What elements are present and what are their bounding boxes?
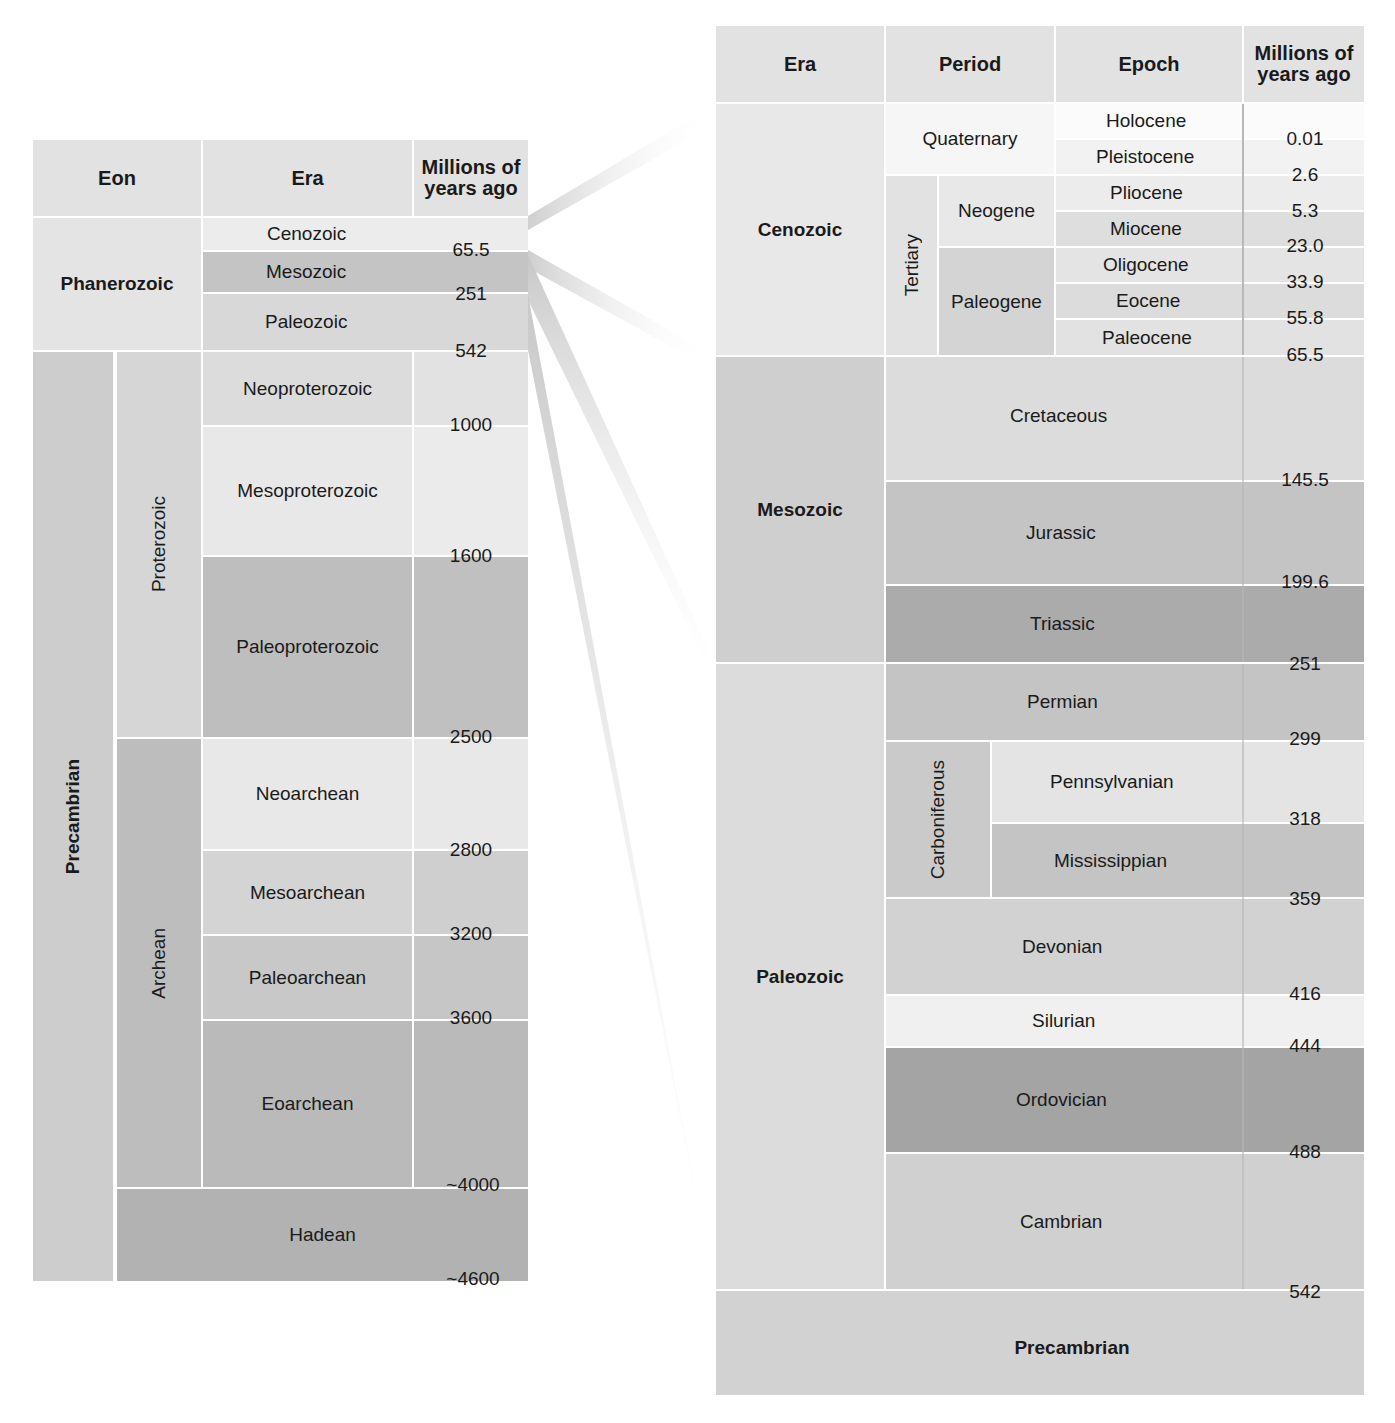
boundary-value: 145.5 <box>1250 469 1360 491</box>
period-tertiary: Tertiary <box>886 176 937 355</box>
boundary-value: 251 <box>1250 653 1360 675</box>
eon-label: Proterozoic <box>148 496 170 592</box>
mya-cell <box>414 739 528 849</box>
period-cretaceous: Cretaceous <box>886 357 1364 480</box>
mya-cell <box>414 851 528 934</box>
era-label: Mesozoic <box>266 261 346 283</box>
era-precambrian: Precambrian <box>716 1291 1364 1395</box>
boundary-value: 444 <box>1250 1035 1360 1057</box>
boundary-value: ~4000 <box>418 1174 528 1196</box>
eon-label: Precambrian <box>62 759 84 874</box>
period-label: Ordovician <box>1016 1089 1107 1111</box>
boundary-value: 359 <box>1250 888 1360 910</box>
period-cambrian: Cambrian <box>886 1154 1364 1289</box>
period-label: Cambrian <box>1020 1211 1102 1233</box>
era-mesoarchean: Mesoarchean <box>203 851 412 934</box>
era-neoproterozoic: Neoproterozoic <box>203 352 412 425</box>
period-jurassic: Jurassic <box>886 482 1364 584</box>
era-neoarchean: Neoarchean <box>203 739 412 849</box>
epoch-label: Oligocene <box>1103 254 1189 276</box>
header-era: Era <box>716 26 884 102</box>
boundary-value: 5.3 <box>1250 200 1360 222</box>
era-paleozoic: Paleozoic <box>716 664 884 1289</box>
boundary-value: 488 <box>1250 1141 1360 1163</box>
boundary-value: 2500 <box>416 726 526 748</box>
period-label: Silurian <box>1032 1010 1095 1032</box>
header-mya: Millions of years ago <box>414 140 528 216</box>
boundary-value: 23.0 <box>1250 235 1360 257</box>
era-cenozoic: Cenozoic <box>716 104 884 355</box>
boundary-value: ~4600 <box>418 1268 528 1290</box>
period-label: Mississippian <box>1054 850 1167 872</box>
boundary-value: 1000 <box>416 414 526 436</box>
mya-cell <box>414 427 528 555</box>
epoch-label: Pleistocene <box>1096 146 1194 168</box>
period-label: Permian <box>1027 691 1098 713</box>
era-paleoproterozoic: Paleoproterozoic <box>203 557 412 737</box>
boundary-value: 0.01 <box>1250 128 1360 150</box>
era-paleoarchean: Paleoarchean <box>203 936 412 1019</box>
period-label: Pennsylvanian <box>1050 771 1174 793</box>
epoch-label: Paleocene <box>1102 327 1192 349</box>
boundary-value: 33.9 <box>1250 271 1360 293</box>
period-label: Triassic <box>1030 613 1095 635</box>
period-devonian: Devonian <box>886 899 1364 994</box>
period-carboniferous: Carboniferous <box>886 742 990 897</box>
divider <box>1242 357 1244 662</box>
header-period: Period <box>886 26 1054 102</box>
epoch-label: Miocene <box>1110 218 1182 240</box>
period-mississippian: Mississippian <box>992 824 1364 897</box>
epoch-label: Holocene <box>1106 110 1186 132</box>
epoch-label: Eocene <box>1116 290 1180 312</box>
boundary-value: 251 <box>416 283 526 305</box>
boundary-value: 542 <box>1250 1281 1360 1303</box>
period-label: Jurassic <box>1026 522 1096 544</box>
boundary-value: 3200 <box>416 923 526 945</box>
boundary-value: 2.6 <box>1250 164 1360 186</box>
period-neogene: Neogene <box>939 176 1054 246</box>
period-ordovician: Ordovician <box>886 1048 1364 1152</box>
eon-label: Archean <box>148 928 170 999</box>
boundary-value: 318 <box>1250 808 1360 830</box>
boundary-value: 2800 <box>416 839 526 861</box>
boundary-value: 299 <box>1250 728 1360 750</box>
boundary-value: 65.5 <box>416 239 526 261</box>
boundary-value: 199.6 <box>1250 571 1360 593</box>
boundary-value: 1600 <box>416 545 526 567</box>
era-label: Cenozoic <box>267 223 346 245</box>
boundary-value: 55.8 <box>1250 307 1360 329</box>
header-era: Era <box>203 140 412 216</box>
era-label: Paleozoic <box>265 311 347 333</box>
eon-phanerozoic: Phanerozoic <box>33 218 201 350</box>
mya-cell <box>414 1021 528 1187</box>
divider <box>1242 664 1244 1289</box>
boundary-value: 65.5 <box>1250 344 1360 366</box>
era-mesozoic: Mesozoic <box>716 357 884 662</box>
eon-precambrian: Precambrian <box>33 352 113 1281</box>
period-label: Carboniferous <box>927 760 949 879</box>
header-mya: Millions of years ago <box>1244 26 1364 102</box>
boundary-value: 3600 <box>416 1007 526 1029</box>
boundary-value: 542 <box>416 340 526 362</box>
eon-archean: Archean <box>117 739 201 1187</box>
period-label: Devonian <box>1022 936 1102 958</box>
epoch-label: Pliocene <box>1110 182 1183 204</box>
period-label: Tertiary <box>901 234 923 296</box>
header-eon: Eon <box>33 140 201 216</box>
era-eoarchean: Eoarchean <box>203 1021 412 1187</box>
eon-proterozoic: Proterozoic <box>117 352 201 737</box>
period-label: Cretaceous <box>1010 405 1107 427</box>
header-epoch: Epoch <box>1056 26 1242 102</box>
period-quaternary: Quaternary <box>886 104 1054 174</box>
divider <box>1242 104 1244 355</box>
period-paleogene: Paleogene <box>939 248 1054 355</box>
boundary-value: 416 <box>1250 983 1360 1005</box>
period-triassic: Triassic <box>886 586 1364 662</box>
era-mesoproterozoic: Mesoproterozoic <box>203 427 412 555</box>
mya-cell <box>414 557 528 737</box>
